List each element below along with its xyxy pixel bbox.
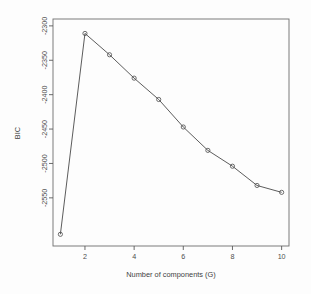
y-tick-label: -2450 bbox=[40, 120, 49, 138]
plot-border bbox=[53, 19, 289, 246]
y-tick-label: -2300 bbox=[40, 17, 49, 35]
bic-series-line bbox=[60, 33, 281, 234]
y-tick-label: -2500 bbox=[40, 154, 49, 172]
y-axis-tick-labels: -2300-2350-2400-2450-2500-2550 bbox=[40, 17, 49, 207]
x-tick-label: 8 bbox=[230, 252, 234, 261]
bic-series-markers bbox=[58, 31, 283, 236]
x-tick-label: 10 bbox=[278, 252, 286, 261]
x-tick-label: 4 bbox=[132, 252, 136, 261]
x-axis-ticks bbox=[85, 246, 282, 250]
x-tick-label: 2 bbox=[83, 252, 87, 261]
y-tick-label: -2550 bbox=[40, 189, 49, 207]
x-axis-tick-labels: 246810 bbox=[83, 252, 286, 261]
chart-canvas: -2300-2350-2400-2450-2500-2550 246810 Nu… bbox=[0, 0, 311, 294]
x-tick-label: 6 bbox=[181, 252, 185, 261]
plot-frame bbox=[53, 19, 289, 246]
y-tick-label: -2350 bbox=[40, 51, 49, 69]
bic-line-chart: -2300-2350-2400-2450-2500-2550 246810 Nu… bbox=[0, 0, 311, 294]
y-tick-label: -2400 bbox=[40, 85, 49, 103]
y-axis-title: BIC bbox=[13, 126, 22, 139]
data-series-group bbox=[58, 31, 283, 236]
x-axis-title: Number of components (G) bbox=[126, 270, 216, 279]
y-axis-ticks bbox=[49, 26, 53, 198]
